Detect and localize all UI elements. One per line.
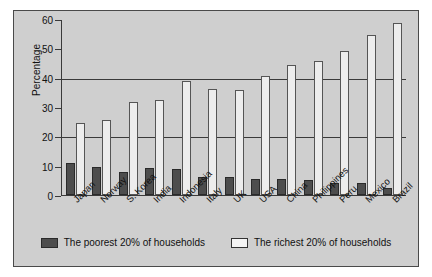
legend-swatch-poorest: [41, 238, 58, 248]
y-tick-label: 10: [29, 167, 53, 168]
bar-richest: [261, 76, 270, 195]
bar-richest: [129, 102, 138, 195]
bar-richest: [314, 61, 323, 195]
chart-legend: The poorest 20% of households The riches…: [14, 237, 418, 248]
bar-group: [115, 20, 141, 195]
y-tick-mark: [55, 167, 61, 168]
y-tick-mark: [55, 137, 61, 138]
legend-label-richest: The richest 20% of households: [254, 237, 391, 248]
bar-poorest: [66, 163, 75, 195]
y-tick-label: 0: [29, 196, 53, 197]
y-tick-label: 20: [29, 137, 53, 138]
bar-group: [168, 20, 194, 195]
legend-swatch-richest: [231, 238, 248, 248]
bar-group: [221, 20, 247, 195]
y-tick-label: 60: [29, 20, 53, 21]
bar-group: [274, 20, 300, 195]
y-tick-mark: [55, 20, 61, 21]
bar-poorest: [251, 179, 260, 195]
bar-richest: [287, 65, 296, 195]
legend-item-richest: The richest 20% of households: [231, 237, 391, 248]
legend-item-poorest: The poorest 20% of households: [41, 237, 205, 248]
bar-richest: [235, 90, 244, 195]
bar-group: [353, 20, 379, 195]
bar-group: [62, 20, 88, 195]
bar-group: [88, 20, 114, 195]
chart-figure: Percentage 0102030405060 JapanNorwayS. K…: [13, 10, 419, 267]
plot-area: 0102030405060: [61, 20, 406, 196]
bar-richest: [155, 100, 164, 195]
y-tick-mark: [55, 108, 61, 109]
bar-poorest: [92, 167, 101, 195]
bar-richest: [393, 23, 402, 195]
bar-poorest: [172, 169, 181, 195]
y-tick-mark: [55, 196, 61, 197]
y-tick-label: 30: [29, 108, 53, 109]
y-tick-label: 40: [29, 79, 53, 80]
bar-richest: [367, 35, 376, 195]
bar-group: [141, 20, 167, 195]
bar-group: [300, 20, 326, 195]
bar-group: [380, 20, 406, 195]
bar-poorest: [225, 177, 234, 195]
y-tick-mark: [55, 79, 61, 80]
bar-series-container: [62, 20, 406, 195]
bar-group: [247, 20, 273, 195]
bar-poorest: [277, 179, 286, 195]
bar-richest: [182, 81, 191, 195]
legend-label-poorest: The poorest 20% of households: [64, 237, 205, 248]
y-tick-label: 50: [29, 49, 53, 50]
y-tick-mark: [55, 49, 61, 50]
